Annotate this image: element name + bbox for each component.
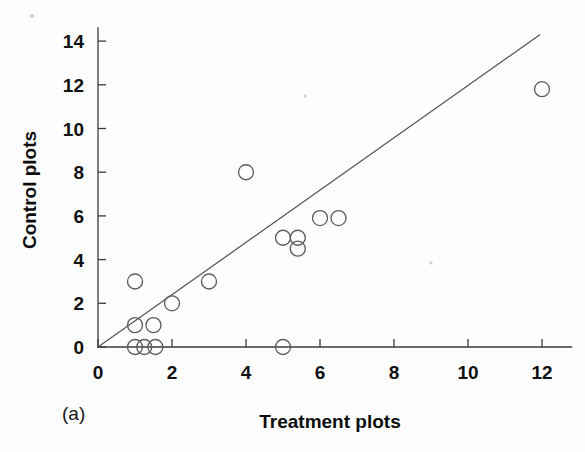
x-axis-title: Treatment plots [259,411,400,432]
y-tick-label: 8 [73,162,84,183]
scan-speck [303,94,306,97]
x-tick-label: 4 [241,362,252,383]
x-tick-label: 2 [167,362,178,383]
y-tick-label: 6 [73,206,84,227]
figure-background [0,0,585,452]
scan-speck [30,14,34,18]
y-tick-label: 0 [73,337,84,358]
scatter-plot-figure: 02468101214 024681012 Treatment plots Co… [0,0,585,452]
y-tick-label: 2 [73,293,84,314]
panel-label: (a) [62,403,85,424]
y-tick-label: 14 [63,31,85,52]
y-tick-label: 10 [63,119,84,140]
x-tick-label: 8 [389,362,400,383]
y-tick-label: 4 [73,250,84,271]
x-tick-label: 0 [93,362,104,383]
x-tick-label: 12 [531,362,552,383]
y-axis-title: Control plots [19,131,40,249]
plot-canvas: 02468101214 024681012 Treatment plots Co… [0,0,585,452]
y-tick-label: 12 [63,75,84,96]
x-tick-label: 6 [315,362,326,383]
scan-speck [429,261,432,264]
x-tick-label: 10 [457,362,478,383]
